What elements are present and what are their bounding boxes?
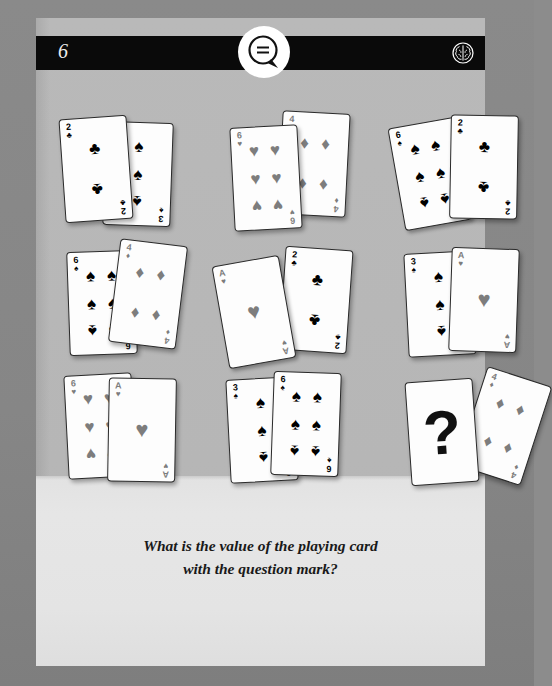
card-pip: ♣ [463,125,506,168]
card-pip: ♥ [244,164,266,193]
card-pip: ♥ [78,412,100,441]
speech-bubble-icon[interactable] [238,26,290,78]
card-pip: ♣ [295,257,340,302]
card-pip: ♠ [82,317,104,346]
playing-card-a-hearts[interactable]: A♥A♥♥ [448,247,520,353]
card-pip: ♣ [292,299,337,344]
playing-card-4-diamonds[interactable]: 4♦4♦♦♦♦♦ [108,238,188,350]
card-pip: ♣ [462,167,505,210]
card-pip: ♣ [72,126,117,171]
card-pip: ♥ [226,267,282,357]
card-pips: ♣♣ [292,257,340,344]
card-pip: ♥ [264,135,286,164]
playing-card-6-hearts[interactable]: 6♥6♥♥♥♥♥♥♥ [229,124,302,231]
card-pip: ♥ [246,192,268,221]
question-text: What is the value of the playing card wi… [36,534,485,581]
playing-card-2-clubs[interactable]: 2♣2♣♣♣ [449,114,519,219]
card-pip: ♥ [77,384,99,413]
card-pips: ♥ [462,257,507,342]
card-pip: ♥ [243,136,265,165]
card-pips: ♠♠♠♠♠♠ [284,381,329,466]
card-pip: ♠ [285,409,307,438]
card-pip: ♠ [306,382,328,411]
card-pip: ♥ [120,388,163,473]
card-pips: ♥ [226,267,282,357]
card-pip: ♥ [80,440,102,469]
playing-card-2-clubs[interactable]: 2♣2♣♣♣ [58,115,133,223]
card-pips: ♣♣ [72,126,120,213]
page-number: 6 [58,40,69,63]
card-pip: ♠ [286,381,308,410]
card-pips: ♦♦♦♦ [122,250,174,338]
card-pip: ♠ [305,438,327,467]
playing-card-6-spades[interactable]: 6♠6♠♠♠♠♠♠♠ [270,371,342,477]
playing-card-?-unknown[interactable]: ? [404,378,479,486]
speech-bubble-glyph [244,32,284,72]
question-mark-glyph: ? [406,379,479,485]
card-pips: ♦♦♦♦ [471,380,537,473]
card-pip: ♦ [314,122,337,165]
brain-glyph [452,42,474,64]
card-pip: ♠ [306,410,328,439]
card-pip: ♥ [267,191,289,220]
card-pips: ♥ [120,388,163,473]
question-line-2: with the question mark? [36,557,485,580]
card-pip: ♠ [81,289,103,318]
card-pips: ♥♥♥♥♥♥ [243,135,289,221]
card-pip: ♠ [284,437,306,466]
playing-card-a-hearts[interactable]: A♥A♥♥ [107,377,177,482]
brain-icon[interactable] [452,42,474,64]
card-pip: ♥ [265,163,287,192]
card-pip: ♦ [312,164,335,207]
card-pip: ♦ [148,252,174,296]
card-pip: ♥ [462,257,507,342]
card-pip: ♣ [75,168,120,213]
card-pip: ♠ [80,261,102,290]
card-pips: ♣♣ [462,125,505,210]
card-pip: ♠ [423,129,449,160]
question-line-1: What is the value of the playing card [36,534,485,557]
